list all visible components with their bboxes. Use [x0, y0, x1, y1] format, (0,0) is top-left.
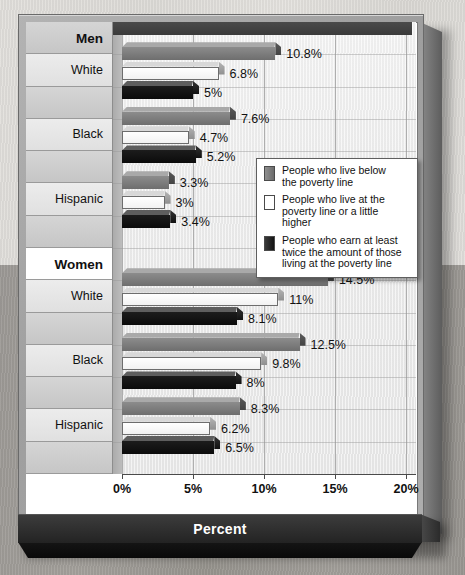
bar-front-face — [122, 112, 230, 125]
spacer-row — [26, 151, 112, 183]
bar-value-label: 7.6% — [241, 112, 270, 126]
bar-value-label: 6.5% — [225, 441, 254, 455]
bar-men-black-below — [122, 112, 230, 125]
bar-men-white-at — [122, 67, 219, 80]
spacer-row — [26, 313, 112, 345]
bar-value-label: 12.5% — [311, 338, 346, 352]
axis-title-banner: Percent — [18, 514, 422, 543]
bar-women-black-below — [122, 338, 300, 351]
bar-men-hispanic-below — [122, 176, 169, 189]
axis-left-filler — [26, 474, 112, 518]
legend: People who live below the poverty line P… — [256, 158, 418, 278]
legend-at-line2: poverty line or a little higher — [282, 205, 378, 229]
axis-title: Percent — [18, 515, 422, 543]
category-label: Black — [72, 353, 112, 367]
bar-value-label: 8% — [247, 376, 265, 390]
bar-value-label: 6.2% — [221, 422, 250, 436]
bar-women-black-twice — [122, 376, 236, 389]
bar-front-face — [122, 293, 278, 306]
bar-front-face — [122, 441, 214, 454]
category-label: White — [71, 63, 112, 77]
chart-figure: 10.8%6.8%5%7.6%4.7%5.2%3.3%3%3.4%14.5%11… — [0, 0, 465, 575]
bar-front-face — [122, 86, 193, 99]
axis-tick-label: 0% — [113, 482, 131, 496]
category-label-row: Hispanic — [26, 183, 112, 215]
category-label-row: White — [26, 54, 112, 86]
category-label-row: White — [26, 280, 112, 312]
bar-value-label: 5.2% — [207, 150, 236, 164]
group-header-row: Men — [26, 22, 112, 54]
bar-front-face — [122, 196, 165, 209]
category-label-column: MenWhiteBlackHispanicWomenWhiteBlackHisp… — [26, 22, 113, 474]
legend-label-below: People who live below the poverty line — [282, 165, 386, 188]
bar-men-white-below — [122, 47, 275, 60]
legend-item-twice: People who earn at least twice the amoun… — [264, 235, 410, 270]
category-label: Hispanic — [55, 192, 112, 206]
axis-tick-label: 10% — [251, 482, 276, 496]
bar-front-face — [122, 67, 219, 80]
axis-tick — [264, 474, 265, 479]
legend-twice-line2: twice the amount of those — [282, 246, 402, 258]
legend-item-at: People who live at the poverty line or a… — [264, 194, 410, 229]
bar-value-label: 8.1% — [248, 312, 277, 326]
axis-tick-label: 20% — [393, 482, 418, 496]
legend-item-below: People who live below the poverty line — [264, 165, 410, 188]
bar-men-white-twice — [122, 86, 193, 99]
chart-area: 10.8%6.8%5%7.6%4.7%5.2%3.3%3%3.4%14.5%11… — [26, 22, 416, 518]
bar-front-face — [122, 131, 189, 144]
legend-below-line2: the poverty line — [282, 176, 353, 188]
bar-front-face — [122, 312, 237, 325]
axis-line — [122, 474, 416, 475]
bar-front-face — [122, 338, 300, 351]
bar-value-label: 3.4% — [181, 215, 210, 229]
category-label-row: Black — [26, 119, 112, 151]
bar-front-face — [122, 176, 169, 189]
bar-front-face — [122, 215, 170, 228]
spacer-row — [26, 377, 112, 409]
axis-tick — [335, 474, 336, 479]
bar-men-hispanic-twice — [122, 215, 170, 228]
bar-value-label: 6.8% — [230, 67, 259, 81]
bar-value-label: 3.3% — [180, 176, 209, 190]
legend-at-line1: People who live at the — [282, 193, 385, 205]
group-label: Men — [76, 30, 112, 45]
bar-women-hispanic-at — [122, 422, 210, 435]
bar-value-label: 4.7% — [200, 131, 229, 145]
legend-below-line1: People who live below — [282, 164, 386, 176]
bar-value-label: 8.3% — [251, 402, 280, 416]
bar-front-face — [122, 422, 210, 435]
axis-tick-label: 5% — [184, 482, 202, 496]
bar-front-face — [122, 357, 261, 370]
bar-men-black-twice — [122, 150, 196, 163]
bar-front-face — [122, 402, 240, 415]
bar-women-hispanic-below — [122, 402, 240, 415]
axis-tick — [193, 474, 194, 479]
legend-twice-line1: People who earn at least — [282, 234, 398, 246]
bar-women-black-at — [122, 357, 261, 370]
legend-label-twice: People who earn at least twice the amoun… — [282, 235, 402, 270]
bar-front-face — [122, 47, 275, 60]
legend-label-at: People who live at the poverty line or a… — [282, 194, 410, 229]
group-label: Women — [54, 256, 112, 271]
axis-tick — [406, 474, 407, 479]
legend-swatch-at-icon — [264, 195, 275, 210]
legend-twice-line3: living at the poverty line — [282, 257, 392, 269]
x-axis: 0%5%10%15%20% — [112, 474, 416, 518]
bar-front-face — [122, 376, 236, 389]
bar-value-label: 11% — [289, 293, 313, 307]
spacer-row — [26, 442, 112, 474]
bar-front-face — [122, 150, 196, 163]
bar-women-hispanic-twice — [122, 441, 214, 454]
category-label: Hispanic — [55, 418, 112, 432]
banner-front-face — [18, 542, 422, 558]
bar-men-black-at — [122, 131, 189, 144]
bar-value-label: 9.8% — [272, 357, 301, 371]
category-label: Black — [72, 127, 112, 141]
category-label-row: Hispanic — [26, 409, 112, 441]
spacer-row — [26, 87, 112, 119]
category-label: White — [71, 289, 112, 303]
group-header-row: Women — [26, 248, 112, 280]
legend-swatch-below-icon — [264, 166, 275, 181]
bar-value-label: 3% — [176, 196, 194, 210]
axis-tick — [122, 474, 123, 479]
